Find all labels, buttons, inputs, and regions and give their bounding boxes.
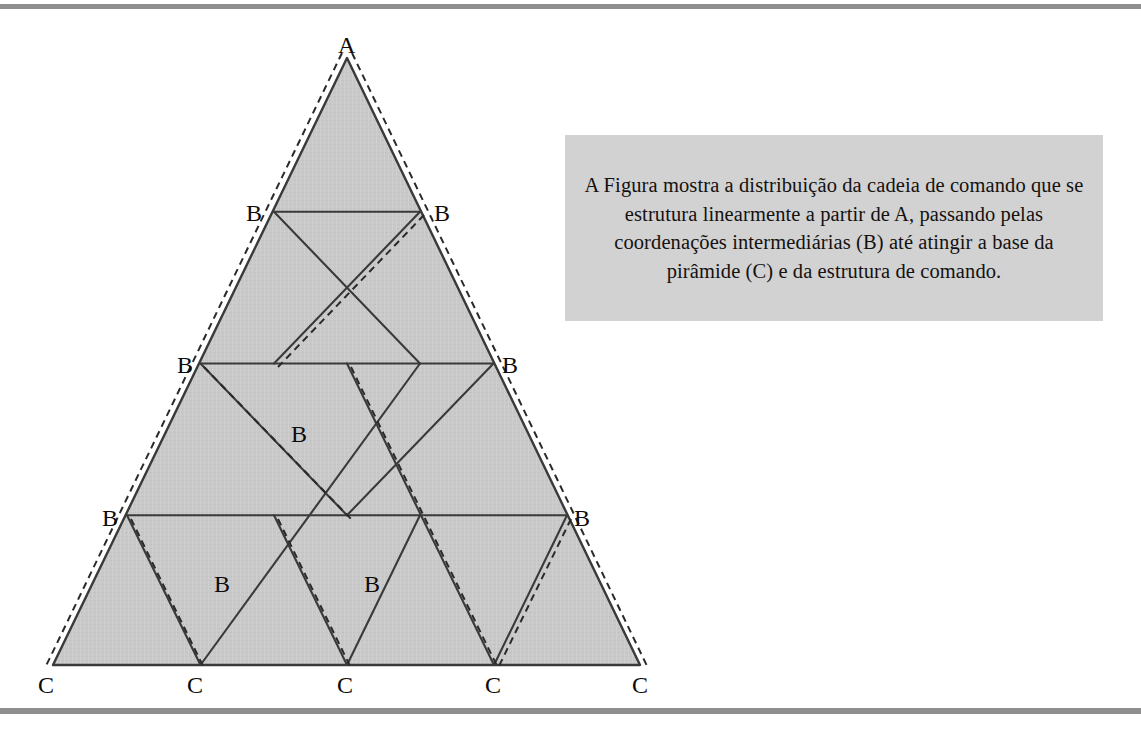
bottom-divider-rule [0,708,1141,714]
pyramid-diagram [0,0,1141,732]
vertex-label-b-centre: B [291,422,307,446]
vertex-label-c-2: C [187,673,203,697]
vertex-label-b-r4-right: B [364,572,380,596]
vertex-label-b-r2-right: B [502,353,518,377]
vertex-label-c-1: C [38,673,54,697]
figure-caption-text: A Figura mostra a distribuição da cadeia… [565,171,1103,285]
figure-page: A B B B B B B B B B C C C C C A Figura m… [0,0,1141,732]
vertex-label-a: A [338,33,355,57]
vertex-label-c-5: C [632,673,648,697]
vertex-label-b-r4-left: B [214,572,230,596]
vertex-label-b-r1-right: B [434,201,450,225]
vertex-label-c-4: C [485,673,501,697]
vertex-label-c-3: C [337,673,353,697]
vertex-label-b-r1-left: B [246,201,262,225]
vertex-label-b-r3-left: B [102,506,118,530]
figure-caption-box: A Figura mostra a distribuição da cadeia… [565,135,1103,321]
pyramid-fill [53,58,640,665]
vertex-label-b-r3-right: B [574,506,590,530]
vertex-label-b-r2-left: B [177,353,193,377]
